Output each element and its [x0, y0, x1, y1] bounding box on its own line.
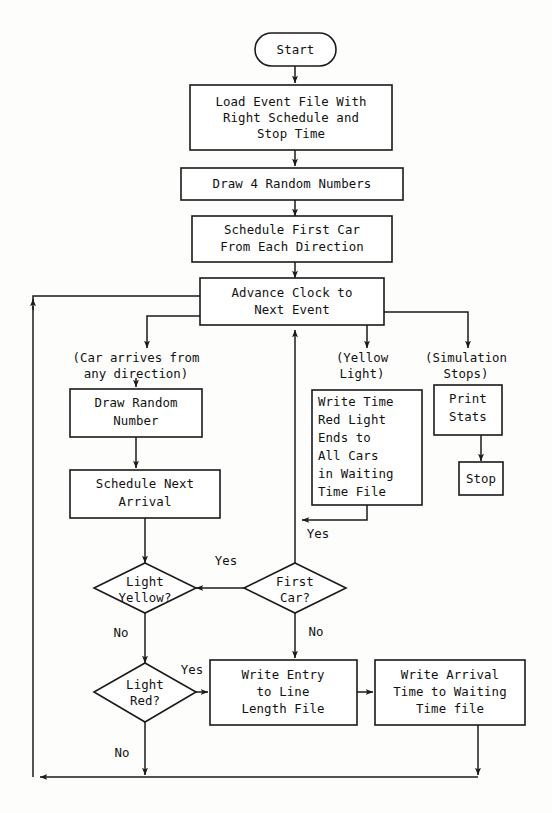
draw-random-number-line-1: Draw Random: [94, 395, 177, 410]
write-arrival-line-1: Write Arrival: [401, 667, 499, 682]
label-light-yellow-no: No: [114, 625, 129, 640]
label-light-red-yes: Yes: [181, 662, 203, 677]
car-arrives-line-2: any direction): [84, 366, 188, 381]
schedule-next-arrival-line-1: Schedule Next: [96, 476, 194, 491]
load-event-file-line-2: Right Schedule and: [223, 110, 359, 125]
schedule-first-car-line-2: From Each Direction: [220, 239, 364, 254]
write-entry-line-2: to Line: [257, 684, 310, 699]
draw-random-number-line-2: Number: [113, 413, 158, 428]
write-arrival-line-3: Time file: [416, 701, 484, 716]
node-light-yellow: Light Yellow?: [94, 563, 196, 613]
node-draw-random-number: Draw Random Number: [70, 389, 202, 437]
node-load-event-file: Load Event File With Right Schedule and …: [190, 85, 392, 150]
write-time-line-6: Time File: [318, 484, 386, 499]
write-arrival-line-2: Time to Waiting: [393, 684, 506, 699]
note-car-arrives: (Car arrives from any direction): [73, 350, 200, 381]
light-yellow-line-1: Light: [126, 574, 164, 589]
light-yellow-line-2: Yellow?: [119, 590, 172, 605]
edge-writetime-to-advance-rail: [302, 505, 367, 520]
load-event-file-line-1: Load Event File With: [215, 94, 366, 109]
load-event-file-line-3: Stop Time: [257, 126, 325, 141]
yellow-light-line-2: Light): [340, 366, 385, 381]
node-print-stats: Print Stats: [434, 385, 502, 435]
print-stats-line-2: Stats: [449, 409, 487, 424]
node-start: Start: [255, 33, 336, 66]
note-simulation-stops: (Simulation Stops): [425, 350, 507, 381]
light-red-line-1: Light: [126, 677, 164, 692]
edge-loopback-into-advance: [33, 296, 200, 300]
node-schedule-next-arrival: Schedule Next Arrival: [70, 470, 220, 518]
label-first-car-no: No: [309, 624, 324, 639]
write-time-line-2: Red Light: [318, 412, 386, 427]
flowchart-canvas: Start Load Event File With Right Schedul…: [0, 0, 552, 813]
start-label: Start: [277, 42, 315, 57]
node-advance-clock: Advance Clock to Next Event: [200, 278, 384, 325]
print-stats-line-1: Print: [449, 391, 487, 406]
simulation-stops-line-1: (Simulation: [425, 350, 507, 365]
write-time-line-1: Write Time: [318, 394, 394, 409]
edge-advance-to-car-arrives: [147, 316, 200, 348]
flowchart-svg: Start Load Event File With Right Schedul…: [0, 0, 552, 813]
node-stop: Stop: [459, 462, 503, 495]
write-time-line-5: in Waiting: [318, 466, 394, 481]
draw-four-random-line-1: Draw 4 Random Numbers: [213, 176, 372, 191]
schedule-next-arrival-line-2: Arrival: [119, 494, 172, 509]
schedule-first-car-line-1: Schedule First Car: [224, 222, 360, 237]
yellow-light-line-1: (Yellow: [336, 350, 389, 365]
write-time-line-4: All Cars: [318, 448, 378, 463]
node-first-car: First Car?: [244, 563, 346, 613]
car-arrives-line-1: (Car arrives from: [73, 350, 200, 365]
node-schedule-first-car: Schedule First Car From Each Direction: [192, 216, 392, 262]
first-car-line-1: First: [276, 574, 314, 589]
note-yellow-light: (Yellow Light): [336, 350, 389, 381]
edge-advance-to-simulation-stops: [384, 312, 468, 348]
light-red-line-2: Red?: [130, 693, 160, 708]
advance-clock-line-1: Advance Clock to: [232, 285, 353, 300]
stop-label: Stop: [466, 471, 496, 486]
write-entry-line-3: Length File: [241, 701, 324, 716]
label-light-red-no: No: [115, 745, 130, 760]
first-car-line-2: Car?: [280, 590, 310, 605]
label-first-car-yes: Yes: [215, 553, 237, 568]
write-entry-line-1: Write Entry: [241, 667, 324, 682]
node-write-arrival-waiting: Write Arrival Time to Waiting Time file: [375, 660, 525, 725]
write-time-line-3: Ends to: [318, 430, 371, 445]
advance-clock-line-2: Next Event: [254, 302, 330, 317]
node-draw-four-random: Draw 4 Random Numbers: [181, 168, 403, 200]
simulation-stops-line-2: Stops): [444, 366, 489, 381]
node-write-time-red-light: Write Time Red Light Ends to All Cars in…: [312, 390, 422, 505]
label-write-time-yes: Yes: [307, 526, 329, 541]
node-write-entry-line-length: Write Entry to Line Length File: [210, 660, 357, 725]
